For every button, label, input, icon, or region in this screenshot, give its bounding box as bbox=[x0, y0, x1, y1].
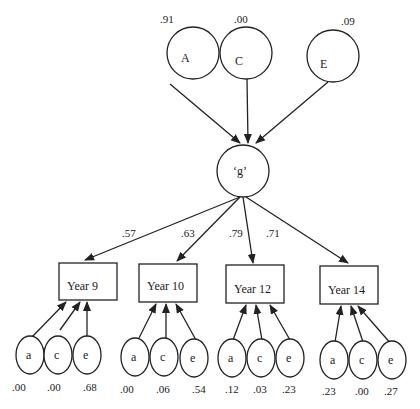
residual-value: .00 bbox=[120, 383, 134, 395]
residual-year10-e: e .54 bbox=[180, 339, 208, 395]
observed-year10: Year 10 bbox=[139, 264, 197, 302]
residual-value: .27 bbox=[384, 385, 398, 397]
residual-year12-a: a .12 bbox=[218, 339, 246, 395]
residual-value: .03 bbox=[253, 383, 267, 395]
path-diagram: A .91 C .00 E .09 ‘g’ .57 .63 .79 .71 Ye… bbox=[0, 0, 420, 409]
edge-year14-e bbox=[358, 306, 392, 345]
observed-year14: Year 14 bbox=[320, 266, 378, 304]
edge-year10-a bbox=[139, 304, 156, 338]
edge-year9-a bbox=[31, 302, 66, 338]
residual-label: c bbox=[54, 348, 59, 362]
loading-year10: .63 bbox=[181, 227, 195, 239]
edge-g-to-year9 bbox=[85, 197, 240, 260]
residual-label: c bbox=[359, 353, 364, 367]
residual-label: e bbox=[190, 351, 195, 365]
residual-label: e bbox=[388, 353, 393, 367]
loading-year14: .71 bbox=[266, 227, 280, 239]
residual-label: e bbox=[83, 348, 88, 362]
edge-year12-c bbox=[256, 305, 262, 340]
residual-year12-c: c .03 bbox=[247, 339, 275, 395]
residual-year9-a: a .00 bbox=[12, 336, 44, 393]
factor-e-label: E bbox=[320, 57, 327, 71]
residual-value: .12 bbox=[225, 383, 239, 395]
residual-label: c bbox=[160, 350, 165, 364]
factor-c: C .00 bbox=[220, 13, 272, 79]
edge-year12-e bbox=[270, 305, 290, 340]
edge-year14-a bbox=[335, 306, 341, 342]
loading-year12: .79 bbox=[229, 227, 243, 239]
edge-e-to-g bbox=[256, 82, 328, 143]
observed-year9-label: Year 9 bbox=[67, 279, 98, 293]
residual-label: a bbox=[228, 351, 234, 365]
residual-value: .00 bbox=[12, 381, 26, 393]
residual-value: .00 bbox=[355, 385, 369, 397]
edge-year12-a bbox=[233, 305, 246, 340]
edge-year10-e bbox=[176, 304, 196, 340]
residual-year10-a: a .00 bbox=[120, 338, 149, 395]
residual-label: a bbox=[131, 350, 137, 364]
residual-value: .06 bbox=[156, 383, 170, 395]
loading-year9: .57 bbox=[122, 227, 136, 239]
residual-value: .68 bbox=[83, 381, 97, 393]
residual-value: .23 bbox=[282, 383, 296, 395]
observed-year14-label: Year 14 bbox=[328, 283, 365, 297]
factor-g-label: ‘g’ bbox=[233, 164, 247, 178]
residual-year14-c: c .00 bbox=[349, 341, 377, 397]
residual-label: e bbox=[286, 351, 291, 365]
factor-a-label: A bbox=[181, 51, 190, 65]
observed-year12-label: Year 12 bbox=[234, 282, 271, 296]
observed-year9: Year 9 bbox=[59, 263, 117, 300]
residual-value: .54 bbox=[192, 383, 206, 395]
factor-c-label: C bbox=[235, 54, 243, 68]
edge-c-to-g bbox=[247, 79, 248, 143]
residual-year14-e: e .27 bbox=[378, 341, 406, 397]
factor-e-value: .09 bbox=[341, 15, 355, 27]
residual-year9-e: e .68 bbox=[73, 336, 101, 393]
residual-label: c bbox=[257, 351, 262, 365]
edge-g-to-year14 bbox=[246, 197, 348, 263]
factor-c-value: .00 bbox=[234, 13, 248, 25]
edge-g-to-year12 bbox=[243, 197, 253, 263]
residual-label: a bbox=[330, 353, 336, 367]
residual-year12-e: e .23 bbox=[276, 339, 304, 395]
residual-year9-c: c .00 bbox=[44, 336, 72, 393]
residual-value: .23 bbox=[322, 385, 336, 397]
edge-year14-c bbox=[351, 306, 363, 342]
factor-a-value: .91 bbox=[160, 13, 174, 25]
factor-g: ‘g’ bbox=[217, 145, 269, 197]
residual-value: .00 bbox=[47, 381, 61, 393]
observed-year12: Year 12 bbox=[226, 265, 284, 303]
edge-a-to-g bbox=[170, 84, 240, 143]
factor-a: A .91 bbox=[160, 13, 219, 79]
observed-year10-label: Year 10 bbox=[147, 279, 184, 293]
residual-label: a bbox=[26, 348, 32, 362]
edge-year9-c bbox=[60, 302, 80, 330]
residual-year10-c: c .06 bbox=[150, 338, 178, 395]
residual-year14-a: a .23 bbox=[320, 341, 348, 397]
factor-e: E .09 bbox=[307, 15, 359, 82]
